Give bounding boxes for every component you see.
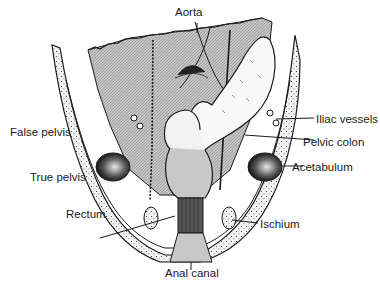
label-aorta: Aorta (175, 6, 203, 18)
acetabulum-right (248, 153, 282, 181)
ischium-right (222, 207, 236, 229)
label-pelvic-colon: Pelvic colon (303, 136, 364, 148)
label-anal-canal: Anal canal (165, 267, 219, 279)
acetabulum-left (96, 153, 130, 181)
ischium-left (144, 207, 158, 229)
label-acetabulum: Acetabulum (292, 161, 353, 173)
label-rectum: Rectum (66, 208, 106, 220)
label-ischium: Ischium (260, 218, 300, 230)
label-true-pelvis: True pelvis (30, 171, 86, 183)
anal-canal (170, 233, 212, 270)
label-iliac-vessels: Iliac vessels (316, 113, 378, 125)
label-false-pelvis: False pelvis (10, 126, 71, 138)
